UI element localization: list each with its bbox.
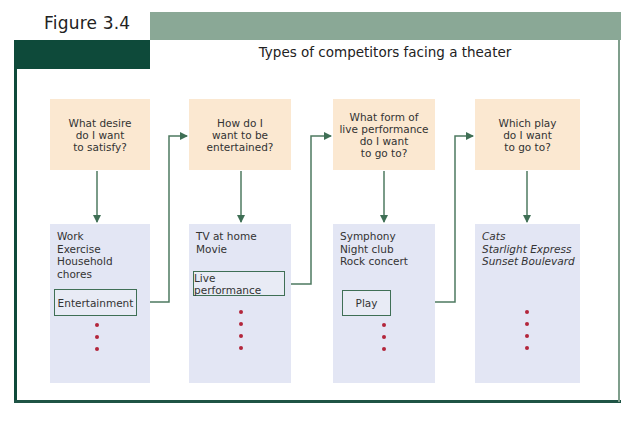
ellipsis-dots-4: [525, 310, 529, 358]
options-box-4: Cats Starlight Express Sunset Boulevard: [475, 224, 580, 383]
question-box-1: What desire do I want to satisfy?: [50, 99, 150, 170]
question-box-4: Which play do I want to go to?: [475, 99, 580, 170]
question-box-2: How do I want to be entertained?: [189, 99, 291, 170]
highlight-box-live-performance: Live performance: [193, 271, 285, 296]
highlight-box-entertainment: Entertainment: [54, 289, 137, 316]
option-item: Starlight Express: [482, 243, 575, 256]
highlight-box-play: Play: [342, 290, 391, 316]
option-item: Household chores: [57, 255, 150, 280]
option-item: Sunset Boulevard: [482, 255, 575, 268]
option-item: Symphony: [340, 230, 408, 243]
option-item: Rock concert: [340, 255, 408, 268]
options-box-2: TV at home Movie: [189, 224, 291, 383]
elbow-connector-2: [285, 136, 331, 284]
ellipsis-dots-1: [95, 323, 99, 359]
option-item: TV at home: [196, 230, 257, 243]
option-item: Night club: [340, 243, 408, 256]
options-list-3: Symphony Night club Rock concert: [340, 230, 408, 268]
ellipsis-dots-3: [382, 323, 386, 359]
options-list-2: TV at home Movie: [196, 230, 257, 255]
option-item: Movie: [196, 243, 257, 256]
options-list-1: Work Exercise Household chores: [57, 230, 150, 280]
question-box-3: What form of live performance do I want …: [333, 99, 435, 170]
option-item: Exercise: [57, 243, 150, 256]
option-item: Work: [57, 230, 150, 243]
options-list-4: Cats Starlight Express Sunset Boulevard: [482, 230, 575, 268]
option-item: Cats: [482, 230, 575, 243]
ellipsis-dots-2: [239, 310, 243, 358]
